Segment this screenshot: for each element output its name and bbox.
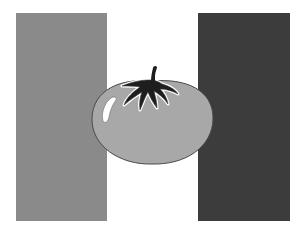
tomato-icon (0, 0, 306, 233)
